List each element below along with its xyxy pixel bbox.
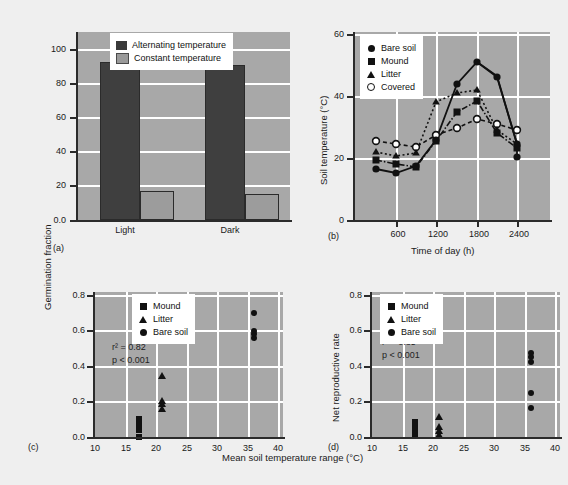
xtick-label-c: 30 [204, 443, 230, 453]
ytick-mark-c [87, 366, 93, 368]
ytick-mark-b [347, 96, 353, 98]
filled-circle-icon [138, 329, 148, 336]
bar-light-alternating [100, 62, 140, 220]
xtick-mark-b [396, 222, 398, 227]
ytick-mark-d [364, 437, 370, 439]
panel-c-legend: Mound Litter Bare soil [132, 294, 195, 344]
marker-mound [373, 98, 521, 171]
ytick-label-c: 0.6 [57, 325, 85, 335]
gridline-d [555, 292, 557, 437]
panel-a-legend: Alternating temperature Constant tempera… [110, 33, 233, 70]
ytick-mark-a [70, 49, 76, 51]
legend-item-litter: Litter [386, 313, 436, 325]
scatter-point-bare-soil [528, 405, 534, 411]
legend-item-litter: Litter [366, 68, 416, 80]
filled-square-icon [366, 58, 376, 65]
bar-dark-constant [245, 194, 279, 220]
xtick-label-d: 10 [359, 443, 385, 453]
xtick-label-d: 30 [481, 443, 507, 453]
ytick-mark-c [87, 401, 93, 403]
xtick-label-d: 25 [451, 443, 477, 453]
panel-a-x-axis [76, 220, 292, 222]
ytick-mark-c [87, 330, 93, 332]
ytick-label-c: 0.8 [57, 290, 85, 300]
scatter-point-litter [435, 423, 443, 430]
panel-d: 0.0 0.2 0.4 0.6 0.8 10 15 20 25 30 35 40… [300, 270, 568, 485]
filled-circle-icon [366, 45, 376, 52]
ytick-mark-b [347, 34, 353, 36]
xtick-label-c: 40 [265, 443, 291, 453]
legend-label: Litter [401, 314, 421, 324]
legend-label: Litter [381, 69, 401, 79]
panel-a: 0.0 20 40 60 80 100 Light Dark Alternati… [0, 0, 300, 270]
dark-swatch-icon [116, 41, 127, 50]
scatter-point-mound [412, 419, 418, 425]
panel-d-legend: Mound Litter Bare soil [380, 294, 443, 344]
legend-label: Covered [381, 82, 415, 92]
ytick-label-c: 0.0 [57, 432, 85, 442]
legend-label: Bare soil [381, 43, 416, 53]
legend-item-mound: Mound [138, 300, 188, 312]
bar-dark-alternating [205, 65, 245, 220]
gridline-c [278, 292, 280, 437]
gridline-d [372, 401, 560, 403]
ytick-label-b: 60 [322, 29, 344, 39]
bar-light-constant [140, 191, 174, 220]
scatter-point-bare-soil [251, 328, 257, 334]
panel-b: 0 20 40 60 600 1200 1800 2400 Soil tempe… [300, 0, 568, 270]
xtick-mark-b [517, 222, 519, 227]
xtick-mark-b [436, 222, 438, 227]
xtick-label-d: 20 [420, 443, 446, 453]
ytick-mark-a [70, 185, 76, 187]
panel-c: 0.0 0.2 0.4 0.6 0.8 10 15 20 25 30 35 40… [0, 270, 300, 485]
panel-b-legend: Bare soil Mound Litter Covered [360, 36, 423, 99]
ytick-label-d: 0.8 [334, 290, 362, 300]
xtick-label-d: 15 [390, 443, 416, 453]
legend-label: Litter [153, 314, 173, 324]
legend-label: Bare soil [153, 327, 188, 337]
panel-b-y-axis [353, 32, 355, 222]
panel-b-x-axis-label: Time of day (h) [411, 245, 475, 256]
filled-triangle-icon [366, 71, 376, 78]
panel-b-tag: (b) [328, 231, 339, 241]
gridline-d [525, 292, 527, 437]
ytick-label-a: 0.0 [38, 215, 66, 225]
xtick-label-b: 600 [383, 229, 413, 239]
legend-item-bare-soil: Bare soil [386, 326, 436, 338]
ytick-label-a: 40 [38, 146, 66, 156]
legend-item-litter: Litter [138, 313, 188, 325]
panel-b-y-axis-label: Soil temperature (°C) [318, 96, 329, 185]
open-circle-icon [366, 83, 376, 91]
light-swatch-icon [116, 53, 129, 64]
ytick-mark-b [347, 158, 353, 160]
figure-root: Germination fraction Mean soil temperatu… [0, 0, 568, 485]
legend-item-bare-soil: Bare soil [366, 42, 416, 54]
ytick-mark-c [87, 295, 93, 297]
xtick-label-c: 10 [82, 443, 108, 453]
ytick-mark-d [364, 330, 370, 332]
xtick-label-c: 20 [143, 443, 169, 453]
ytick-label-b: 0 [322, 215, 344, 225]
panel-b-x-axis [353, 220, 552, 222]
scatter-point-litter [158, 372, 166, 379]
xtick-label-c: 15 [113, 443, 139, 453]
legend-item-mound: Mound [386, 300, 436, 312]
xtick-mark-b [477, 222, 479, 227]
scatter-point-bare-soil [528, 350, 534, 356]
category-label-dark: Dark [205, 225, 255, 235]
panel-c-y-axis [93, 292, 95, 439]
filled-triangle-icon [386, 316, 396, 323]
legend-item-alternating: Alternating temperature [116, 39, 226, 51]
ytick-mark-a [70, 151, 76, 153]
panel-d-y-axis-label: Net reproductive rate [330, 333, 341, 422]
panel-a-y-axis [76, 32, 78, 222]
legend-label: Mound [401, 301, 429, 311]
xtick-label-b: 2400 [504, 229, 534, 239]
ytick-label-a: 60 [38, 112, 66, 122]
xtick-label-b: 1200 [423, 229, 453, 239]
legend-item-mound: Mound [366, 55, 416, 67]
legend-label: Bare soil [401, 327, 436, 337]
ytick-mark-a [70, 83, 76, 85]
xtick-label-d: 40 [542, 443, 568, 453]
legend-item-bare-soil: Bare soil [138, 326, 188, 338]
